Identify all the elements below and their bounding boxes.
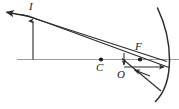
label-focal-point: F bbox=[135, 41, 142, 52]
label-vertex: O bbox=[117, 69, 125, 80]
label-center-of-curvature: C bbox=[96, 62, 103, 73]
label-image-point: I bbox=[29, 1, 33, 12]
lower-ray bbox=[122, 59, 161, 92]
reflected-ray bbox=[22, 15, 167, 62]
ray-diagram-figure: I C O F bbox=[0, 0, 179, 109]
point-F-dot bbox=[138, 57, 142, 61]
diagram-canvas bbox=[0, 0, 179, 109]
